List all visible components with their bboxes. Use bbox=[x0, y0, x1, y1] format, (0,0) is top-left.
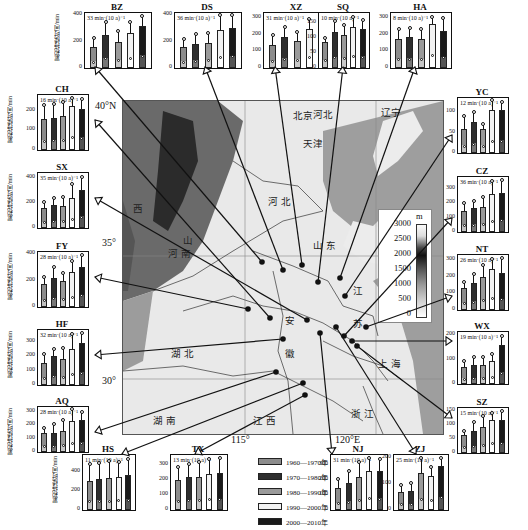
plot-area: 28 min·(10 a)⁻¹ bbox=[37, 251, 89, 308]
y-tick-label: 300 bbox=[17, 407, 35, 413]
station-chart-cz: CZ36 min·(10 a)⁻¹1002003000 bbox=[457, 176, 507, 231]
station-title: HA bbox=[390, 2, 450, 12]
bar bbox=[51, 205, 57, 228]
legend-swatch bbox=[258, 488, 282, 495]
legend-swatch bbox=[258, 458, 282, 465]
error-cap-marker bbox=[42, 352, 46, 356]
error-cap-marker bbox=[61, 418, 65, 422]
error-bar bbox=[483, 265, 484, 277]
station-chart-nt: NT26 min·(10 a)⁻¹1002003000 bbox=[457, 254, 507, 309]
error-bar bbox=[199, 462, 200, 476]
station-chart-tx: TX13 min·(10 a)⁻¹1002003000 bbox=[170, 454, 226, 509]
y-tick-label: 200 bbox=[17, 106, 35, 112]
bar bbox=[196, 477, 202, 510]
y-tick-label: 100 bbox=[437, 355, 455, 361]
y-tick-label: 0 bbox=[17, 302, 35, 308]
median-marker bbox=[410, 503, 413, 506]
median-marker bbox=[71, 442, 74, 445]
province-label: 安 bbox=[285, 313, 295, 327]
y-tick-label: 0 bbox=[243, 63, 261, 69]
province-label: 上 海 bbox=[378, 356, 401, 370]
y-tick-label: 0 bbox=[17, 223, 35, 229]
error-bar bbox=[128, 459, 129, 476]
median-marker bbox=[219, 56, 222, 59]
bar bbox=[60, 116, 66, 150]
error-cap-marker bbox=[462, 429, 466, 433]
error-bar bbox=[348, 471, 349, 482]
y-tick-label: 100 bbox=[17, 434, 35, 440]
bar bbox=[461, 129, 467, 153]
y-tick-label: 400 bbox=[62, 467, 80, 473]
error-cap-marker bbox=[481, 122, 485, 126]
station-title: NT bbox=[457, 244, 507, 254]
y-tick-label: 100 bbox=[243, 46, 261, 52]
median-marker bbox=[117, 59, 120, 62]
error-cap-marker bbox=[70, 182, 74, 186]
median-marker bbox=[482, 299, 485, 302]
median-marker bbox=[43, 299, 46, 302]
bar bbox=[480, 129, 486, 153]
error-cap-marker bbox=[472, 355, 476, 359]
plot-area: 36 min·(10 a)⁻¹ bbox=[457, 176, 509, 233]
median-marker bbox=[129, 57, 132, 60]
province-label: 湖 北 bbox=[171, 346, 194, 360]
y-tick-label: 200 bbox=[437, 198, 455, 204]
error-cap-marker bbox=[194, 32, 198, 36]
error-cap-marker bbox=[52, 265, 56, 269]
error-bar bbox=[72, 334, 73, 349]
trend-rate: 8 min·(10 a)⁻¹ bbox=[393, 14, 428, 21]
bar bbox=[360, 29, 366, 68]
median-marker bbox=[482, 377, 485, 380]
y-tick-label: 300 bbox=[150, 460, 168, 466]
y-tick-label: 0 bbox=[370, 63, 388, 69]
plot-area: 15 min·(10 a)⁻¹ bbox=[457, 407, 509, 454]
bar bbox=[440, 31, 447, 68]
median-marker bbox=[442, 56, 445, 59]
median-marker bbox=[440, 496, 443, 499]
lon-115-label: 115° bbox=[231, 434, 250, 445]
bar bbox=[281, 37, 288, 68]
province-label: 西 bbox=[133, 201, 143, 215]
trend-rate: 35 min·(10 a)⁻¹ bbox=[40, 174, 78, 181]
error-bar bbox=[188, 464, 189, 478]
error-bar bbox=[53, 104, 54, 118]
error-cap-marker bbox=[116, 29, 120, 33]
bar bbox=[69, 106, 75, 150]
error-cap-marker bbox=[472, 272, 476, 276]
y-tick-label: 0 bbox=[154, 63, 172, 69]
error-cap-marker bbox=[61, 346, 65, 350]
bar bbox=[51, 278, 57, 307]
error-cap-marker bbox=[462, 359, 466, 363]
bar bbox=[102, 35, 109, 68]
median-marker bbox=[62, 220, 65, 223]
median-marker bbox=[62, 139, 65, 142]
error-cap-marker bbox=[409, 481, 413, 485]
median-marker bbox=[491, 297, 494, 300]
median-marker bbox=[127, 499, 130, 502]
error-cap-marker bbox=[42, 426, 46, 430]
error-cap-marker bbox=[52, 422, 56, 426]
y-tick-label: 200 bbox=[437, 330, 455, 336]
plot-area: 35 min·(10 a)⁻¹ bbox=[37, 172, 89, 229]
colorbar-tick: 1000 bbox=[383, 278, 411, 288]
error-cap-marker bbox=[439, 456, 443, 460]
bar bbox=[41, 208, 47, 228]
bar bbox=[41, 363, 47, 385]
y-tick-label: 300 bbox=[370, 13, 388, 19]
bar bbox=[499, 110, 505, 153]
bar bbox=[206, 474, 212, 510]
bar bbox=[60, 359, 66, 386]
error-cap-marker bbox=[128, 20, 132, 24]
y-tick-label: 0 bbox=[373, 505, 391, 511]
error-cap-marker bbox=[117, 460, 121, 464]
province-label: 江 bbox=[353, 283, 363, 297]
median-marker bbox=[296, 59, 299, 62]
error-cap-marker bbox=[408, 26, 412, 30]
median-marker bbox=[98, 500, 101, 503]
station-title: HF bbox=[37, 319, 87, 329]
y-tick-label: 400 bbox=[64, 10, 82, 16]
error-cap-marker bbox=[462, 280, 466, 284]
bar bbox=[41, 433, 47, 452]
y-tick-label: 200 bbox=[154, 37, 172, 43]
error-cap-marker bbox=[61, 195, 65, 199]
